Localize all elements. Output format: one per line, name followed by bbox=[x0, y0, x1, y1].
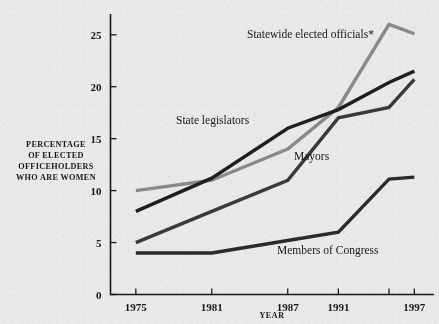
y-axis-label-line-2: OF ELECTED bbox=[28, 151, 84, 160]
x-axis-title: YEAR bbox=[259, 311, 284, 320]
y-tick-label: 0 bbox=[96, 289, 102, 301]
chart-container: PERCENTAGE OF ELECTED OFFICEHOLDERS WHO … bbox=[0, 0, 439, 324]
y-tick-label: 10 bbox=[91, 185, 103, 197]
y-axis-label-line-1: PERCENTAGE bbox=[26, 140, 86, 149]
series-line-state-legislators bbox=[136, 71, 415, 211]
y-tick-label: 25 bbox=[91, 29, 103, 41]
statewide-elected-officials-label: Statewide elected officials* bbox=[247, 28, 374, 40]
y-axis-ticks: 0510152025 bbox=[91, 29, 117, 301]
members-of-congress-label: Members of Congress bbox=[277, 244, 379, 257]
x-tick-label: 1981 bbox=[201, 301, 223, 313]
x-tick-label: 1991 bbox=[327, 301, 349, 313]
series-line-mayors bbox=[136, 79, 415, 242]
x-tick-label: 1997 bbox=[403, 301, 426, 313]
mayors-label: Mayors bbox=[294, 150, 330, 163]
y-axis-label-line-4: WHO ARE WOMEN bbox=[16, 173, 96, 182]
series-line-members-of-congress bbox=[136, 177, 415, 253]
state-legislators-label: State legislators bbox=[176, 114, 250, 127]
line-chart: PERCENTAGE OF ELECTED OFFICEHOLDERS WHO … bbox=[0, 0, 439, 324]
y-tick-label: 20 bbox=[91, 81, 103, 93]
series-group bbox=[136, 24, 415, 253]
y-axis-label-line-3: OFFICEHOLDERS bbox=[18, 162, 94, 171]
series-line-statewide-elected-officials bbox=[136, 24, 415, 190]
y-tick-label: 15 bbox=[91, 133, 103, 145]
x-axis-ticks: 19751981198719911997 bbox=[125, 289, 426, 313]
y-tick-label: 5 bbox=[96, 237, 102, 249]
y-axis-label: PERCENTAGE OF ELECTED OFFICEHOLDERS WHO … bbox=[16, 140, 96, 182]
x-tick-label: 1975 bbox=[125, 301, 148, 313]
